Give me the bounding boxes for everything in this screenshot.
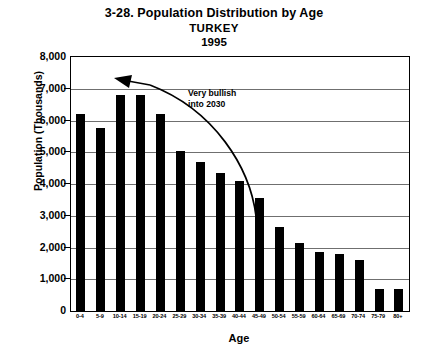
bar[interactable]	[216, 173, 225, 311]
plot-area	[70, 56, 410, 312]
y-axis-tick-mark	[64, 278, 70, 279]
bar[interactable]	[176, 151, 185, 311]
bar-slot	[329, 57, 349, 311]
bar-slot	[310, 57, 330, 311]
bar[interactable]	[235, 181, 244, 311]
y-axis-tick-label: 6,000	[10, 114, 66, 126]
bar[interactable]	[196, 162, 205, 311]
bar-slot	[111, 57, 131, 311]
y-axis-tick-label: 5,000	[10, 145, 66, 157]
bar[interactable]	[375, 289, 384, 311]
bar[interactable]	[96, 128, 105, 311]
bar[interactable]	[255, 198, 264, 311]
x-axis-tick-label: 5-9	[90, 313, 110, 327]
bar-slot	[369, 57, 389, 311]
bar-slot	[349, 57, 369, 311]
x-axis-tick-label: 25-29	[169, 313, 189, 327]
x-axis-title: Age	[70, 332, 408, 344]
bar[interactable]	[275, 227, 284, 311]
bar[interactable]	[76, 114, 85, 311]
chart-subtitle-year: 1995	[0, 35, 428, 49]
chart-subtitle-country: TURKEY	[0, 21, 428, 35]
bar-slot	[270, 57, 290, 311]
y-axis-tick-mark	[64, 215, 70, 216]
y-axis-tick-mark	[64, 88, 70, 89]
y-axis-tick-label: 3,000	[10, 209, 66, 221]
bar-slot	[91, 57, 111, 311]
x-axis-tick-label: 40-44	[229, 313, 249, 327]
y-axis-tick-label: 0	[10, 304, 66, 316]
y-axis-tick-label: 8,000	[10, 50, 66, 62]
x-axis-tick-label: 30-34	[189, 313, 209, 327]
y-axis-tick-mark	[64, 247, 70, 248]
bar[interactable]	[295, 243, 304, 311]
x-axis-tick-label: 80+	[388, 313, 408, 327]
y-axis-tick-label: 2,000	[10, 241, 66, 253]
bar[interactable]	[315, 252, 324, 311]
x-axis-tick-label: 65-69	[328, 313, 348, 327]
bar-slot	[389, 57, 409, 311]
y-axis-tick-mark	[64, 183, 70, 184]
x-axis-tick-label: 60-64	[309, 313, 329, 327]
y-axis-tick-label: 1,000	[10, 272, 66, 284]
x-axis-ticks: 0-45-910-1415-1920-2425-2930-3435-3940-4…	[70, 313, 408, 327]
chart-figure: 3-28. Population Distribution by Age TUR…	[0, 0, 428, 354]
bar[interactable]	[116, 95, 125, 311]
y-axis-tick-mark	[64, 120, 70, 121]
y-axis-tick-label: 4,000	[10, 177, 66, 189]
x-axis-tick-label: 55-59	[289, 313, 309, 327]
x-axis-tick-label: 45-49	[249, 313, 269, 327]
bar[interactable]	[355, 260, 364, 311]
bar-slot	[250, 57, 270, 311]
x-axis-tick-label: 35-39	[209, 313, 229, 327]
x-axis-tick-label: 70-74	[348, 313, 368, 327]
bar[interactable]	[335, 254, 344, 311]
y-axis-tick-mark	[64, 151, 70, 152]
bar-slot	[290, 57, 310, 311]
page-title: 3-28. Population Distribution by Age	[0, 6, 428, 21]
bar-slot	[71, 57, 91, 311]
bar[interactable]	[136, 95, 145, 311]
x-axis-tick-label: 10-14	[110, 313, 130, 327]
y-axis-tick-label: 7,000	[10, 82, 66, 94]
x-axis-tick-label: 15-19	[130, 313, 150, 327]
annotation-label: Very bullish into 2030	[188, 88, 236, 109]
x-axis-tick-label: 20-24	[150, 313, 170, 327]
bar-slot	[151, 57, 171, 311]
x-axis-tick-label: 75-79	[368, 313, 388, 327]
bar-slot	[131, 57, 151, 311]
bar[interactable]	[394, 289, 403, 311]
x-axis-tick-label: 50-54	[269, 313, 289, 327]
x-axis-tick-label: 0-4	[70, 313, 90, 327]
bar-series	[71, 57, 409, 311]
chart-title-block: 3-28. Population Distribution by Age TUR…	[0, 6, 428, 49]
bar[interactable]	[156, 114, 165, 311]
